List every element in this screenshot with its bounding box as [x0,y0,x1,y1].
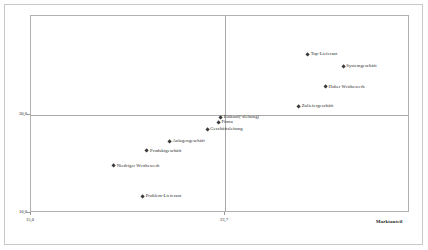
data-point-label: Geschäftsleitung [210,126,242,131]
data-point-label: Top-Lieferant [311,51,338,56]
diamond-marker-icon [323,85,328,90]
diamond-marker-icon [216,120,221,125]
data-point-label: Hoher Wettbewerb [328,84,364,89]
diamond-marker-icon [167,139,172,144]
x-tick-mark [224,212,225,215]
data-point-label: Problem-Lieferant [146,193,182,198]
data-point-label: Produktgeschäft [150,148,181,153]
data-point-label: Niedriger Wettbewerb [117,163,160,168]
data-point-label: Firma [221,119,232,124]
diamond-marker-icon [341,64,346,69]
diamond-marker-icon [111,163,116,168]
y-tick-label: 30,0 [9,111,27,116]
x-tick-mark [30,212,31,215]
x-axis-title: Marktanteil [376,219,402,224]
diamond-marker-icon [205,127,210,132]
diamond-marker-icon [145,149,150,154]
diamond-marker-icon [140,194,145,199]
data-point-label: Systemgeschäft [346,63,376,68]
data-point-label: Anlagengeschäft [172,138,204,143]
diamond-marker-icon [305,52,310,57]
y-tick-label: 10,0 [9,209,27,214]
plot-area: Top-LieferantSystemgeschäftHoher Wettbew… [30,15,409,212]
chart-screenshot: Marktausschöpfung Marktanteil 30,010,0 1… [0,0,428,250]
data-point-label: Zuliefergeschäft [302,103,334,108]
x-tick-label: 15,0 [18,217,42,222]
diamond-marker-icon [296,104,301,109]
x-tick-label: 23,7 [212,217,236,222]
